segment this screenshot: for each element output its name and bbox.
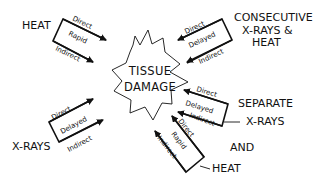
separate-group: SEPARATE X-RAYS AND HEAT Direct Delayed … <box>155 85 293 175</box>
xrays-direct-label: Direct <box>50 105 72 122</box>
separate-xray-delayed-label: Delayed <box>184 99 214 115</box>
separate-label-line1: SEPARATE <box>238 97 293 110</box>
xrays-delayed-label: Delayed <box>59 115 88 136</box>
tissue-damage-star: TISSUE DAMAGE <box>112 30 188 120</box>
consecutive-direct-label: Direct <box>183 20 206 36</box>
consecutive-label-line1: CONSECUTIVE <box>234 11 313 24</box>
heat-indirect-label: Indirect <box>54 45 82 64</box>
center-label-damage: DAMAGE <box>124 80 176 94</box>
center-label-tissue: TISSUE <box>128 64 172 78</box>
consecutive-label-line3: HEAT <box>252 36 281 49</box>
heat-rapid-label: Rapid <box>67 30 88 46</box>
tissue-damage-diagram: TISSUE DAMAGE HEAT Direct Rapid Indirect… <box>0 0 314 181</box>
separate-label-line2: X-RAYS <box>246 115 285 128</box>
separate-label-line4: HEAT <box>212 162 241 175</box>
xrays-label: X-RAYS <box>12 140 51 153</box>
consecutive-group: CONSECUTIVE X-RAYS & HEAT Direct Delayed… <box>178 11 313 66</box>
separate-label-line3: AND <box>230 141 254 154</box>
xrays-group: X-RAYS Direct Delayed Indirect <box>12 99 103 154</box>
heat-label: HEAT <box>22 19 51 32</box>
separate-heat-leader <box>200 166 210 169</box>
heat-group: HEAT Direct Rapid Indirect <box>22 15 106 64</box>
